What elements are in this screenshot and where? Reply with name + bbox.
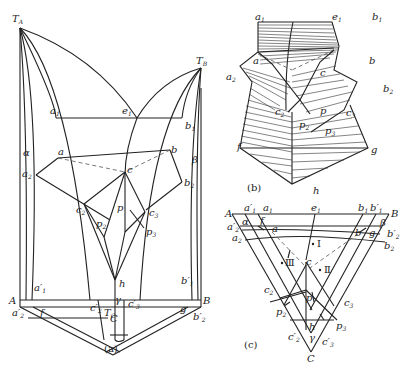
label-p2: p2 <box>96 218 106 230</box>
label-TB: TB <box>196 55 208 67</box>
label-e1: e1 <box>122 105 132 117</box>
b-label-b2: b2 <box>383 83 393 95</box>
label-b2: b2 <box>184 177 194 189</box>
caption-c: (c) <box>244 339 258 350</box>
label-b: b <box>171 144 177 155</box>
label-c: c <box>127 164 133 175</box>
b-label-b: b <box>369 55 375 66</box>
label-alpha: α <box>23 147 30 158</box>
c-label-c2: c2 <box>264 284 274 296</box>
b-label-p3: p3 <box>325 125 335 137</box>
c-label-f: f <box>259 215 266 226</box>
b-label-h: h <box>313 185 319 196</box>
label-a2: a2 <box>22 168 32 180</box>
c-label-g: g <box>369 227 375 238</box>
b-label-c2: c2 <box>275 106 285 118</box>
b-label-e1: e1 <box>332 11 342 23</box>
b-label-p: p <box>320 105 327 116</box>
b-label-a: a <box>253 55 259 66</box>
c-label-alpha: α <box>242 216 249 227</box>
c-label-a2: a2 <box>232 232 242 244</box>
label-g: g <box>180 303 186 314</box>
b-label-c: c <box>320 67 326 78</box>
label-f: f <box>39 307 46 318</box>
c-label-e1: e1 <box>311 202 321 214</box>
b-label-a2: a2 <box>226 71 236 83</box>
label-c2-prime: c′2 <box>90 302 102 314</box>
b-label-a1: a1 <box>255 11 265 23</box>
c-label-beta: β <box>379 217 386 228</box>
label-p: p <box>117 202 124 213</box>
caption-b: (b) <box>247 182 261 193</box>
label-b1: b1 <box>185 120 195 132</box>
label-c3: c3 <box>149 207 159 219</box>
label-gamma: γ <box>115 294 121 305</box>
c-label-a1-prime: a′1 <box>244 202 256 214</box>
c-label-gamma: γ <box>309 332 315 343</box>
c-label-A: A <box>224 208 232 219</box>
label-B: B <box>202 295 210 306</box>
label-p3: p3 <box>146 226 156 238</box>
label-beta: β <box>191 154 198 165</box>
c-label-c: c <box>306 256 312 267</box>
b-label-f: f <box>236 141 243 152</box>
c-label-p: p <box>306 292 313 303</box>
c-label-b1: b1 <box>358 202 368 214</box>
c-region-I: Ⅰ <box>317 238 321 249</box>
b-label-b1: b1 <box>372 11 382 23</box>
label-TA: TA <box>12 13 24 25</box>
c-label-b2-prime: b′2 <box>387 228 400 240</box>
c-label-c2-prime: c′2 <box>288 331 300 343</box>
label-C: C <box>110 313 118 324</box>
c-label-c3: c3 <box>344 297 354 309</box>
c-label-b: b <box>355 227 361 238</box>
label-a1-prime: a′1 <box>34 282 46 294</box>
c-region-III: Ⅲ <box>285 257 295 268</box>
c-label-b2: b2 <box>384 240 394 252</box>
c-label-a: a <box>272 223 278 234</box>
b-label-g: g <box>371 144 377 155</box>
label-b2-prime: b′2 <box>193 311 206 323</box>
c-label-h: h <box>309 321 315 332</box>
panel-b-surfaces <box>240 22 368 184</box>
caption-a: (a) <box>104 343 118 354</box>
c-label-B: B <box>390 208 398 219</box>
c-region-II: Ⅱ <box>324 264 331 275</box>
label-h: h <box>119 278 125 289</box>
b-label-c3: c3 <box>346 107 356 119</box>
c-label-p3: p3 <box>336 320 346 332</box>
b-label-p2: p2 <box>299 119 309 131</box>
panel-a-prism <box>20 28 201 355</box>
label-a: a <box>58 146 64 157</box>
c-label-a1: a1 <box>263 202 273 214</box>
label-A: A <box>8 295 16 306</box>
phase-diagram-figure: TA TB a1 e1 b1 α a b β a2 b2 c c2 c3 p p… <box>0 0 411 370</box>
c-label-C: C <box>307 353 315 364</box>
c-label-p2: p2 <box>276 306 286 318</box>
c-label-c3-prime: c′3 <box>322 336 334 348</box>
c-label-b1-prime: b′1 <box>370 202 383 214</box>
